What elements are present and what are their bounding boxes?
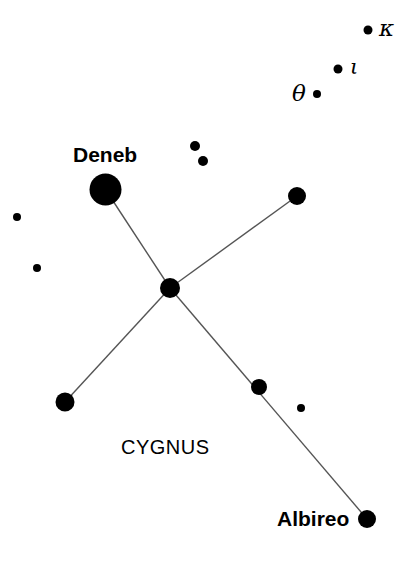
constellation-name-label: CYGNUS: [121, 437, 210, 457]
star-small-lower-r: [297, 404, 305, 412]
sky-canvas: [0, 0, 408, 561]
star-label-deneb: Deneb: [73, 144, 137, 165]
greek-label-iota: ι: [350, 57, 358, 78]
star-small-left-b: [33, 264, 41, 272]
star-gienah-east: [288, 187, 306, 205]
greek-label-kappa: κ: [379, 17, 394, 40]
star-theta-star: [313, 90, 321, 98]
asterism-line-center-to-east: [170, 196, 297, 288]
greek-label-theta: θ: [292, 82, 306, 105]
star-delta-west: [56, 393, 75, 412]
star-sadr-center: [160, 278, 180, 298]
star-albireo: [358, 510, 376, 528]
asterism-lines: [65, 190, 367, 520]
star-iota-star: [334, 65, 343, 74]
star-chart: Deneb Albireo CYGNUS κ ι θ: [0, 0, 408, 561]
star-deneb: [90, 174, 122, 206]
star-kappa-star: [364, 26, 373, 35]
star-small-upper-a: [190, 141, 200, 151]
asterism-line-deneb-to-center: [106, 190, 171, 289]
star-label-albireo: Albireo: [277, 508, 349, 529]
star-small-upper-b: [198, 156, 208, 166]
asterism-line-center-to-west: [65, 288, 170, 402]
asterism-line-center-to-albireo: [170, 288, 367, 519]
star-eta-neck: [251, 379, 267, 395]
star-small-left-a: [13, 213, 21, 221]
